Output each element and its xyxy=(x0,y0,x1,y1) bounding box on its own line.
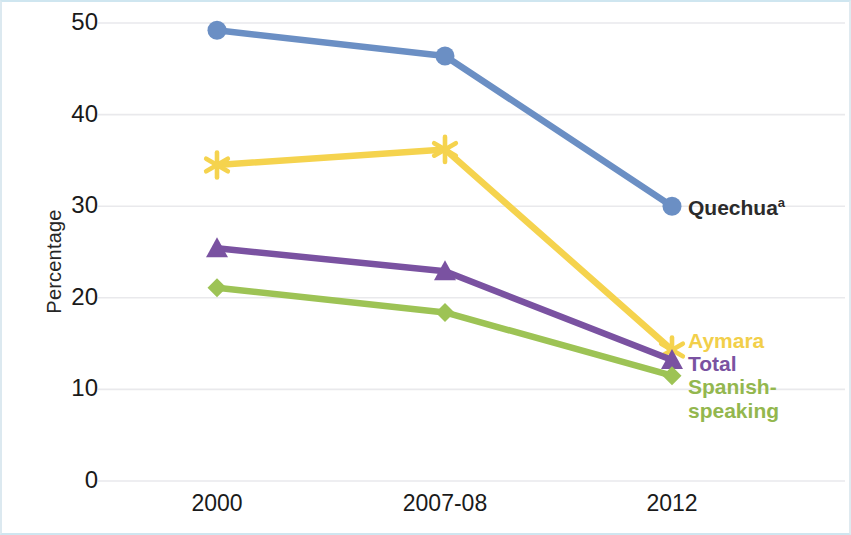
series-label-spanish-speaking: Spanish-speaking xyxy=(688,375,798,422)
series-total xyxy=(206,237,683,369)
y-tick-label: 20 xyxy=(38,285,98,309)
series-label-total: Total xyxy=(688,352,737,376)
series-aymara xyxy=(206,137,683,363)
y-tick-label: 10 xyxy=(38,376,98,400)
y-tick-label: 0 xyxy=(38,468,98,492)
x-tick-label: 2000 xyxy=(191,490,242,517)
series-label-spanish-line1: Spanish- xyxy=(688,375,777,398)
series-label-aymara: Aymara xyxy=(688,329,764,353)
y-axis-tick-labels: 50403020100 xyxy=(12,2,98,535)
data-point-diamond xyxy=(436,303,455,322)
x-tick-label: 2007-08 xyxy=(403,490,487,517)
series-quechua xyxy=(208,21,682,216)
series-label-quechua: Quechuaa xyxy=(688,196,785,220)
data-point-circle xyxy=(663,197,682,216)
data-point-circle xyxy=(436,46,455,65)
y-tick-label: 30 xyxy=(38,193,98,217)
x-tick-label: 2012 xyxy=(646,490,697,517)
plot-area xyxy=(2,2,851,535)
line-chart: Percentage 50403020100 20002007-082012 Q… xyxy=(0,0,851,535)
series-label-quechua-superscript: a xyxy=(778,195,785,210)
data-point-circle xyxy=(208,21,227,40)
data-point-diamond xyxy=(208,278,227,297)
y-tick-label: 50 xyxy=(38,10,98,34)
series-label-quechua-text: Quechua xyxy=(688,196,778,219)
series-label-spanish-line2: speaking xyxy=(688,399,779,422)
y-tick-label: 40 xyxy=(38,102,98,126)
